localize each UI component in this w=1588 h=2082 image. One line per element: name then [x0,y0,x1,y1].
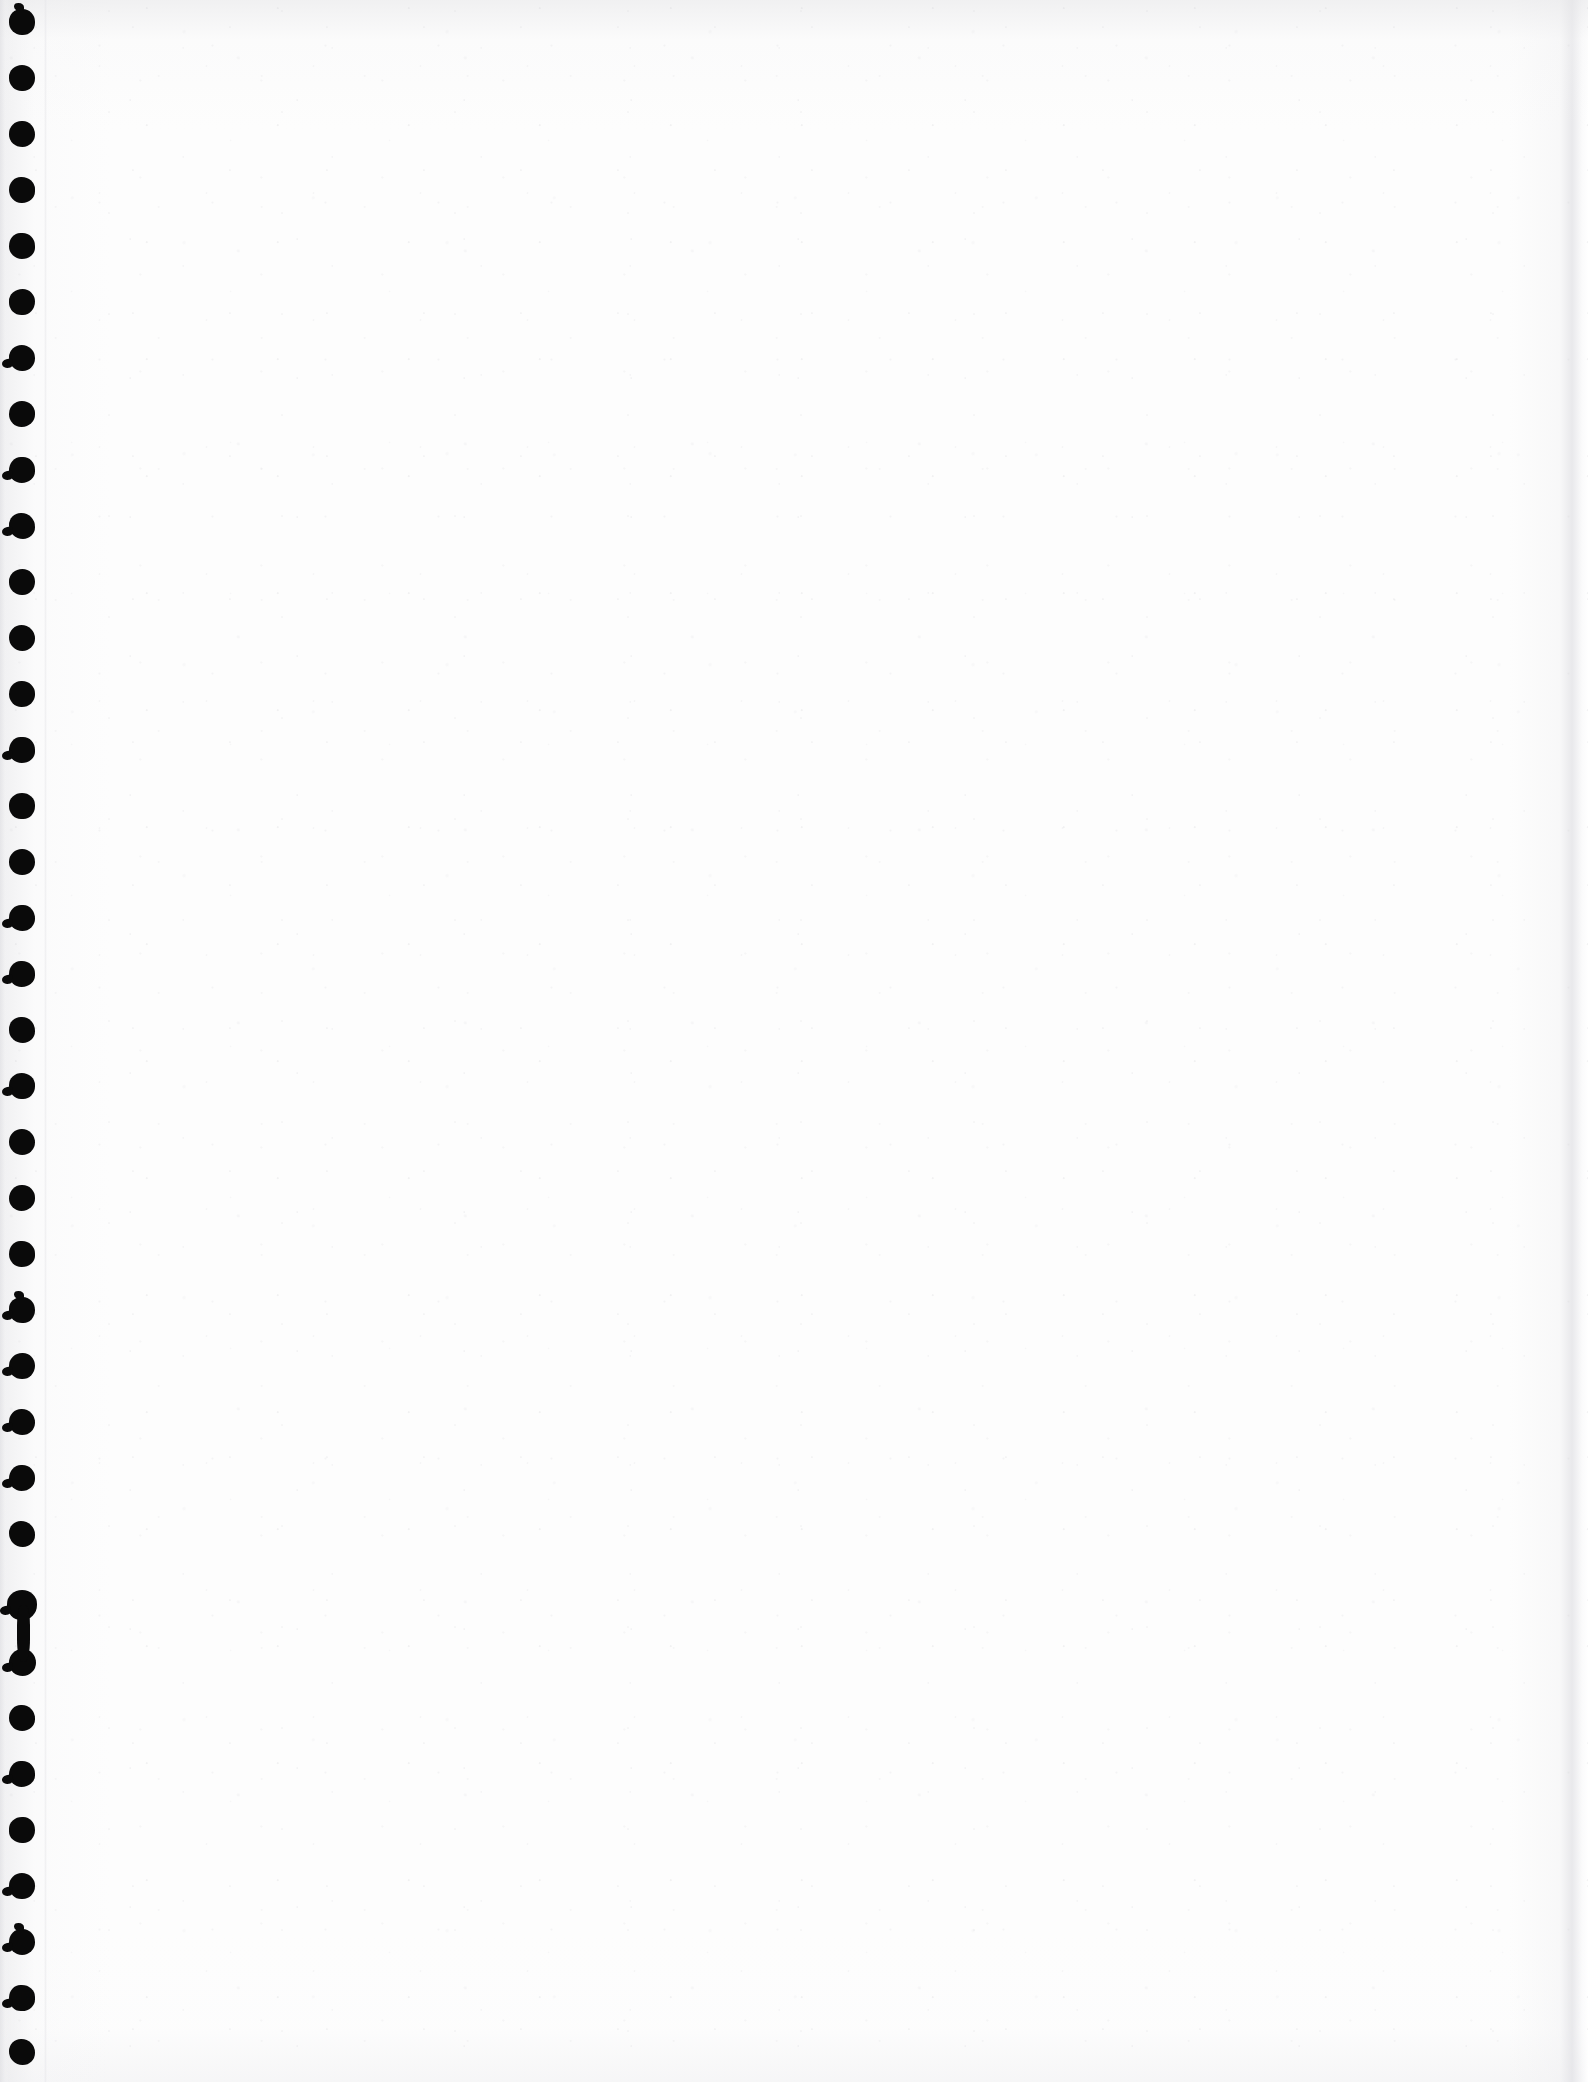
punched-hole-column [0,0,60,2082]
punch-hole [9,737,35,763]
punch-hole [9,1521,35,1547]
punch-hole [9,457,35,483]
punch-hole [9,849,35,875]
punch-hole [9,513,35,539]
punch-hole [9,1465,35,1491]
punch-hole [9,681,35,707]
punch-hole [9,1297,35,1323]
punch-hole [9,625,35,651]
punch-hole [9,65,35,91]
page-content-area [60,0,1588,2082]
punch-hole [9,289,35,315]
punch-hole [9,1129,35,1155]
punch-hole [9,1073,35,1099]
punch-hole [9,233,35,259]
punch-hole [9,1017,35,1043]
punch-hole [9,177,35,203]
punch-hole [9,961,35,987]
punch-hole [9,905,35,931]
punch-hole [9,1985,35,2011]
scanned-page [0,0,1588,2082]
punch-hole [9,9,35,35]
punch-hole [9,345,35,371]
torn-hole-bridge [17,1605,30,1662]
punch-hole [9,1409,35,1435]
punch-hole [9,1761,35,1787]
punch-hole [9,793,35,819]
punch-hole [9,1241,35,1267]
punch-hole [9,1873,35,1899]
punch-hole [9,1185,35,1211]
punch-hole [9,1817,35,1843]
punch-hole [9,121,35,147]
punch-hole [9,401,35,427]
punch-hole [9,569,35,595]
punch-hole [9,1929,35,1955]
punch-hole [9,1353,35,1379]
punch-hole [9,1705,35,1731]
punch-hole [9,2039,35,2065]
